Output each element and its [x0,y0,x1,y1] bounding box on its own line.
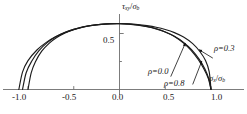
y-tick-marks [120,34,124,62]
x-tick-label-1: 1.0 [211,93,222,102]
curve-label-rho-0-0-text: ρ=0.0 [148,66,168,76]
plot-canvas [0,0,247,114]
x-tick-label-neg1: -1.0 [12,93,26,102]
x-tick-label-0-5: 0.5 [163,93,174,102]
curve-label-rho-0-3: ρ=0.3 [214,44,234,53]
y-tick-label-0-5: 0.5 [103,36,114,45]
x-tick-label-neg0-5: -0.5 [62,93,76,102]
figure-root: τxy/σb σx/σb 0.5 -1.0 -0.5 0.0 0.5 1.0 ρ… [0,0,247,114]
arrow-rho-0-0 [171,43,186,77]
x-axis-label-sigma-den-sub: b [222,77,225,83]
x-axis-label: σx/σb [209,74,225,84]
x-tick-label-0: 0.0 [112,93,123,102]
curve-label-rho-0-0: ρ=0.0 [148,67,168,76]
curve-label-rho-0-8-text: ρ=0.8 [164,78,184,88]
y-axis-label: τxy/σb [122,2,139,12]
arrow-rho-0-8 [193,61,202,85]
y-axis-label-sigma-sub: b [137,5,140,11]
curve-label-rho-0-8: ρ=0.8 [164,79,184,88]
curve-label-rho-0-3-text: ρ=0.3 [214,43,234,53]
